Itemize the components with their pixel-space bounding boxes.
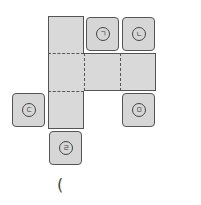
- net-square-middle-center: [84, 53, 120, 91]
- net-square-middle-left: [48, 53, 84, 91]
- net-square-bottom: [48, 91, 84, 129]
- tile-nieun[interactable]: ㄴ: [122, 17, 155, 51]
- net-edge: [48, 16, 49, 129]
- fold-line: [120, 53, 121, 91]
- circled-label: ㄹ: [59, 141, 73, 155]
- net-edge: [155, 53, 156, 91]
- tile-giyeok[interactable]: ㄱ: [86, 17, 119, 51]
- net-square-middle-right: [120, 53, 156, 91]
- fold-line: [84, 53, 85, 91]
- net-square-top: [48, 16, 84, 53]
- tile-rieul[interactable]: ㄹ: [49, 131, 82, 165]
- circled-label: ㄱ: [96, 27, 110, 41]
- circled-label: ㅁ: [132, 103, 146, 117]
- net-edge: [83, 16, 84, 53]
- answer-blank: (: [57, 175, 63, 194]
- circled-label: ㄷ: [22, 103, 36, 117]
- fold-line: [48, 91, 84, 92]
- circled-label: ㄴ: [132, 27, 146, 41]
- fold-line: [48, 53, 84, 54]
- net-edge: [83, 91, 84, 129]
- tile-digeut[interactable]: ㄷ: [12, 93, 45, 127]
- tile-mieum[interactable]: ㅁ: [122, 93, 155, 127]
- net-edge: [48, 128, 84, 129]
- net-edge: [48, 16, 84, 17]
